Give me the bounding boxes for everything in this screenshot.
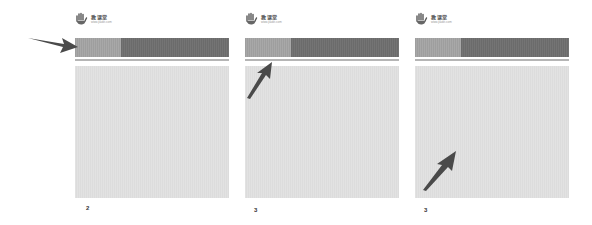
step-panel-3: 教课堂 www.jiaokt.com 3 <box>415 0 569 225</box>
logo-url: www.jiaokt.com <box>261 21 282 24</box>
header-bar-right-segment[interactable] <box>291 38 399 57</box>
arrow-icon <box>246 61 276 99</box>
header-bar <box>415 38 569 57</box>
step-panel-2: 教课堂 www.jiaokt.com 3 <box>245 0 399 225</box>
step-label: 3 <box>254 207 257 213</box>
hand-icon <box>415 12 429 26</box>
logo: 教课堂 www.jiaokt.com <box>245 12 282 26</box>
logo: 教课堂 www.jiaokt.com <box>75 12 112 26</box>
header-bar-left-segment[interactable] <box>75 38 121 57</box>
logo-url: www.jiaokt.com <box>431 21 452 24</box>
divider <box>75 59 229 61</box>
content-area <box>75 66 229 198</box>
arrow-icon <box>28 34 80 54</box>
divider <box>415 59 569 61</box>
step-panel-1: 教课堂 www.jiaokt.com 2 <box>75 0 229 225</box>
step-label: 2 <box>86 205 89 211</box>
hand-icon <box>75 12 89 26</box>
header-bar <box>245 38 399 57</box>
hand-icon <box>245 12 259 26</box>
logo-url: www.jiaokt.com <box>91 21 112 24</box>
header-bar <box>75 38 229 57</box>
header-bar-right-segment[interactable] <box>461 38 569 57</box>
logo: 教课堂 www.jiaokt.com <box>415 12 452 26</box>
header-bar-left-segment[interactable] <box>415 38 461 57</box>
header-bar-left-segment[interactable] <box>245 38 291 57</box>
step-label: 3 <box>424 207 427 213</box>
header-bar-right-segment[interactable] <box>121 38 229 57</box>
arrow-icon <box>422 149 458 191</box>
